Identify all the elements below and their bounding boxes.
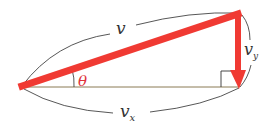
vector-v (22, 14, 238, 86)
label-v: v (116, 18, 126, 38)
label-theta: θ (78, 72, 87, 90)
label-vx-sub: x (130, 112, 136, 123)
label-vy-main: v (244, 40, 253, 59)
label-vy-sub: y (253, 51, 258, 61)
label-vx-main: v (120, 101, 130, 121)
vx-brace-curve-right (150, 88, 239, 112)
vy-arrowhead-icon (230, 70, 246, 89)
vx-brace-curve-left (24, 89, 113, 113)
vy-brace-curve-top (242, 15, 250, 40)
label-vx: vx (120, 101, 135, 123)
label-vy: vy (244, 40, 258, 61)
vector-diagram (0, 0, 274, 129)
